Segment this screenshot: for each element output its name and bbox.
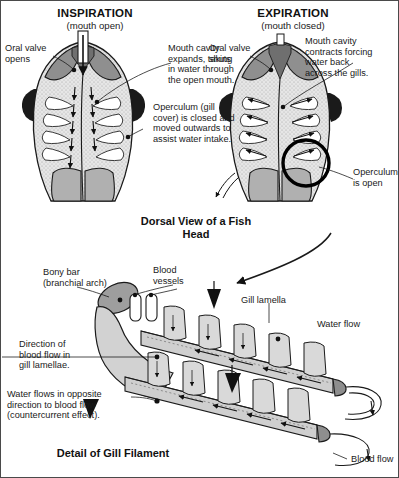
label-countercurrent: Water flows in opposite direction to blo…	[7, 389, 102, 421]
label-direction-blood-flow: Direction of blood flow in gill lamellae…	[19, 339, 70, 371]
label-oral-valve-opens: Oral valve opens	[5, 43, 46, 64]
subtitle-inspiration: (mouth open)	[25, 20, 165, 31]
label-mouth-cavity-contracts: Mouth cavity contracts forcing water bac…	[305, 36, 372, 78]
subtitle-expiration: (mouth closed)	[223, 20, 363, 31]
gill-filament-detail	[2, 276, 381, 465]
label-operculum-open: Operculum is open	[353, 167, 398, 188]
title-inspiration: INSPIRATION	[25, 7, 165, 19]
label-gill-lamella: Gill lamella	[241, 295, 286, 306]
filament-upper	[141, 306, 346, 396]
label-blood-flow: Blood flow	[351, 454, 393, 465]
label-operculum-closed: Operculum (gill cover) is closed and mov…	[153, 102, 235, 144]
caption-gill-filament: Detail of Gill Filament	[23, 447, 203, 460]
label-blood-vessels: Blood vessels	[153, 265, 184, 286]
caption-dorsal-view: Dorsal View of a Fish Head	[131, 215, 261, 241]
label-oral-valve-shuts: Oral valve shuts	[209, 43, 250, 64]
label-water-flow: Water flow	[317, 319, 360, 330]
fish-respiration-diagram: INSPIRATION (mouth open) EXPIRATION (mou…	[0, 0, 399, 478]
blood-vessels	[130, 293, 157, 321]
label-bony-bar: Bony bar (branchial arch)	[43, 267, 107, 288]
title-expiration: EXPIRATION	[223, 7, 363, 19]
